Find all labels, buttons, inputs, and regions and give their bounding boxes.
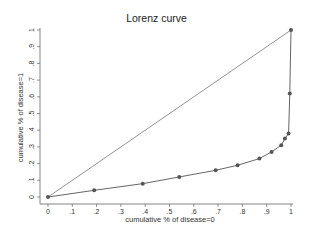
y-tick-label: 0 bbox=[28, 195, 35, 199]
y-tick-label: .4 bbox=[28, 127, 35, 133]
data-point-marker bbox=[236, 163, 240, 167]
x-tick-label: .5 bbox=[167, 208, 173, 215]
x-tick-label: .4 bbox=[142, 208, 148, 215]
y-axis-label: cumulative % of disease=1 bbox=[16, 38, 25, 198]
data-point-marker bbox=[214, 168, 218, 172]
y-tick-label: .9 bbox=[28, 44, 35, 50]
x-tick-label: .3 bbox=[118, 208, 124, 215]
x-tick-label: .1 bbox=[69, 208, 75, 215]
equality-line bbox=[48, 30, 291, 197]
y-tick-label: 1 bbox=[28, 28, 35, 32]
y-tick-label: .5 bbox=[28, 110, 35, 116]
data-point-marker bbox=[270, 150, 274, 154]
data-point-marker bbox=[46, 195, 50, 199]
data-point-marker bbox=[177, 175, 181, 179]
x-tick-label: .6 bbox=[191, 208, 197, 215]
x-axis-label: cumulative % of disease=0 bbox=[48, 215, 292, 224]
x-tick-label: .2 bbox=[94, 208, 100, 215]
line-of-equality bbox=[48, 30, 291, 197]
y-tick-label: .6 bbox=[28, 94, 35, 100]
data-point-marker bbox=[288, 91, 292, 95]
y-tick-label: .2 bbox=[28, 161, 35, 167]
data-point-marker bbox=[283, 137, 287, 141]
data-point-marker bbox=[92, 188, 96, 192]
data-point-marker bbox=[289, 28, 293, 32]
x-tick-label: .7 bbox=[215, 208, 221, 215]
y-tick-label: .1 bbox=[28, 177, 35, 183]
y-tick-label: .8 bbox=[28, 60, 35, 66]
x-tick-label: 1 bbox=[289, 208, 293, 215]
data-point-marker bbox=[141, 182, 145, 186]
x-tick-label: .8 bbox=[239, 208, 245, 215]
x-tick-label: 0 bbox=[46, 208, 50, 215]
x-tick-label: .9 bbox=[264, 208, 270, 215]
data-point-marker bbox=[257, 157, 261, 161]
lorenz-chart-plot: 0.1.2.3.4.5.6.7.8.910.1.2.3.4.5.6.7.8.91 bbox=[0, 0, 313, 238]
data-point-marker bbox=[279, 143, 283, 147]
y-tick-label: .7 bbox=[28, 77, 35, 83]
y-tick-label: .3 bbox=[28, 144, 35, 150]
data-point-marker bbox=[287, 132, 291, 136]
